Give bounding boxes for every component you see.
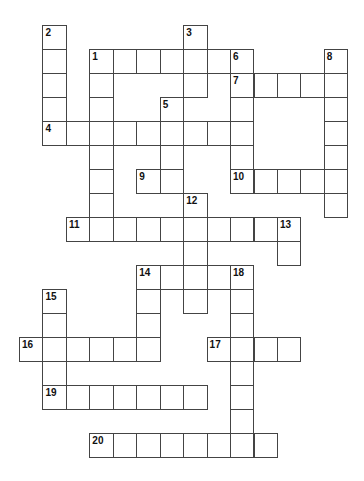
crossword-cell[interactable] (254, 73, 278, 98)
crossword-cell[interactable]: 12 (183, 193, 207, 218)
crossword-cell[interactable] (277, 73, 301, 98)
crossword-cell[interactable]: 11 (66, 217, 90, 242)
crossword-cell[interactable] (300, 73, 324, 98)
crossword-cell[interactable] (66, 385, 90, 410)
crossword-cell[interactable] (66, 337, 90, 362)
crossword-cell[interactable] (160, 49, 184, 74)
crossword-cell[interactable] (113, 217, 137, 242)
crossword-cell[interactable] (42, 361, 66, 386)
crossword-cell[interactable]: 19 (42, 385, 66, 410)
crossword-cell[interactable] (136, 433, 160, 458)
crossword-cell[interactable]: 2 (42, 25, 66, 50)
crossword-cell[interactable] (207, 217, 231, 242)
crossword-cell[interactable] (136, 289, 160, 314)
crossword-cell[interactable] (113, 385, 137, 410)
crossword-cell[interactable] (230, 217, 254, 242)
crossword-cell[interactable] (277, 241, 301, 266)
crossword-cell[interactable] (183, 49, 207, 74)
crossword-cell[interactable] (207, 433, 231, 458)
crossword-cell[interactable]: 3 (183, 25, 207, 50)
crossword-cell[interactable] (324, 193, 348, 218)
crossword-cell[interactable] (42, 313, 66, 338)
crossword-cell[interactable] (89, 169, 113, 194)
crossword-cell[interactable] (160, 121, 184, 146)
crossword-cell[interactable] (89, 121, 113, 146)
crossword-cell[interactable]: 8 (324, 49, 348, 74)
crossword-cell[interactable] (230, 121, 254, 146)
crossword-cell[interactable] (160, 433, 184, 458)
crossword-cell[interactable] (254, 433, 278, 458)
crossword-cell[interactable] (89, 193, 113, 218)
crossword-cell[interactable] (277, 169, 301, 194)
crossword-cell[interactable]: 6 (230, 49, 254, 74)
crossword-cell[interactable] (89, 145, 113, 170)
crossword-cell[interactable] (183, 121, 207, 146)
crossword-cell[interactable] (230, 385, 254, 410)
crossword-cell[interactable] (89, 385, 113, 410)
crossword-cell[interactable] (230, 313, 254, 338)
crossword-cell[interactable] (183, 433, 207, 458)
crossword-cell[interactable] (183, 241, 207, 266)
crossword-cell[interactable] (183, 289, 207, 314)
crossword-cell[interactable] (136, 337, 160, 362)
crossword-cell[interactable] (324, 169, 348, 194)
crossword-cell[interactable] (230, 145, 254, 170)
crossword-cell[interactable] (136, 313, 160, 338)
crossword-cell[interactable] (42, 337, 66, 362)
crossword-cell[interactable] (89, 217, 113, 242)
crossword-cell[interactable] (183, 385, 207, 410)
crossword-cell[interactable] (136, 217, 160, 242)
crossword-cell[interactable] (254, 169, 278, 194)
crossword-cell[interactable] (183, 73, 207, 98)
crossword-cell[interactable] (89, 73, 113, 98)
crossword-cell[interactable]: 5 (160, 97, 184, 122)
crossword-cell[interactable]: 17 (207, 337, 231, 362)
crossword-cell[interactable]: 15 (42, 289, 66, 314)
crossword-cell[interactable] (160, 145, 184, 170)
crossword-cell[interactable] (160, 385, 184, 410)
crossword-cell[interactable] (300, 169, 324, 194)
crossword-cell[interactable]: 18 (230, 265, 254, 290)
crossword-cell[interactable] (136, 385, 160, 410)
crossword-cell[interactable]: 7 (230, 73, 254, 98)
crossword-cell[interactable] (207, 265, 231, 290)
crossword-cell[interactable] (324, 145, 348, 170)
crossword-cell[interactable] (254, 217, 278, 242)
crossword-cell[interactable] (113, 433, 137, 458)
crossword-cell[interactable] (230, 409, 254, 434)
crossword-cell[interactable] (277, 337, 301, 362)
crossword-cell[interactable]: 1 (89, 49, 113, 74)
crossword-cell[interactable] (230, 289, 254, 314)
crossword-cell[interactable]: 14 (136, 265, 160, 290)
crossword-cell[interactable] (113, 337, 137, 362)
crossword-cell[interactable] (207, 121, 231, 146)
crossword-cell[interactable] (113, 121, 137, 146)
crossword-cell[interactable] (324, 121, 348, 146)
crossword-cell[interactable] (89, 337, 113, 362)
crossword-cell[interactable] (183, 265, 207, 290)
crossword-cell[interactable] (160, 265, 184, 290)
crossword-cell[interactable] (230, 97, 254, 122)
crossword-cell[interactable] (42, 73, 66, 98)
crossword-cell[interactable]: 13 (277, 217, 301, 242)
crossword-cell[interactable]: 20 (89, 433, 113, 458)
crossword-cell[interactable]: 4 (42, 121, 66, 146)
crossword-cell[interactable] (89, 97, 113, 122)
crossword-cell[interactable] (113, 49, 137, 74)
crossword-cell[interactable] (324, 73, 348, 98)
crossword-cell[interactable] (136, 121, 160, 146)
crossword-cell[interactable] (230, 433, 254, 458)
crossword-cell[interactable] (160, 169, 184, 194)
crossword-cell[interactable]: 9 (136, 169, 160, 194)
crossword-cell[interactable] (324, 97, 348, 122)
crossword-cell[interactable] (66, 121, 90, 146)
crossword-cell[interactable] (42, 49, 66, 74)
crossword-cell[interactable] (254, 337, 278, 362)
crossword-cell[interactable] (42, 97, 66, 122)
crossword-cell[interactable] (136, 49, 160, 74)
crossword-cell[interactable] (230, 337, 254, 362)
crossword-cell[interactable] (160, 217, 184, 242)
crossword-cell[interactable] (230, 361, 254, 386)
crossword-cell[interactable]: 16 (19, 337, 43, 362)
crossword-cell[interactable]: 10 (230, 169, 254, 194)
